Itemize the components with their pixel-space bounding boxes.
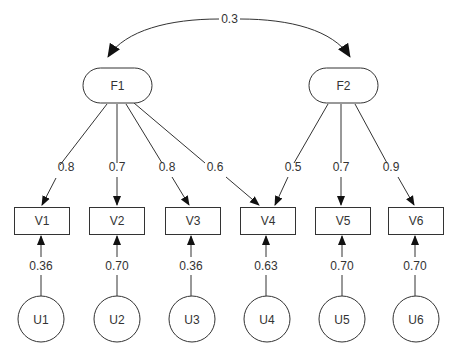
uniqueness-edge-u4: 0.63 (254, 236, 278, 296)
uniqueness-edge-u6: 0.70 (403, 236, 427, 296)
loading-edge-f1-v1: 0.8 (42, 104, 107, 205)
loading-label: 0.7 (109, 160, 126, 174)
variable-label: V5 (336, 214, 351, 228)
factor-node-f2: F2 (309, 68, 378, 103)
correlation-arrow-left (108, 19, 219, 57)
uniqueness-node-u4: U4 (244, 296, 290, 342)
uniqueness-edge-u2: 0.70 (105, 236, 129, 296)
loading-edge-f2-v4: 0.5 (275, 104, 328, 205)
uniqueness-node-label: U3 (184, 313, 200, 327)
variable-node-v4: V4 (241, 208, 296, 235)
factor-label: F2 (336, 79, 350, 93)
variable-node-v1: V1 (15, 208, 70, 235)
uniqueness-node-u2: U2 (94, 296, 140, 342)
correlation-arrow-right (240, 19, 350, 57)
diagram-svg: 0.3 F1 F2 0.8 0.7 0.8 0.6 0.5 0.7 (0, 0, 458, 353)
loading-label: 0.7 (333, 160, 350, 174)
uniqueness-edge-u5: 0.70 (330, 236, 354, 296)
loading-label: 0.5 (285, 160, 302, 174)
loading-label: 0.8 (159, 160, 176, 174)
uniqueness-node-label: U2 (109, 313, 125, 327)
loading-edge-f1-v4: 0.6 (134, 103, 259, 205)
uniqueness-label: 0.36 (179, 259, 203, 273)
uniqueness-node-label: U6 (408, 313, 424, 327)
uniqueness-label: 0.70 (403, 259, 427, 273)
correlation-label: 0.3 (221, 12, 238, 26)
uniqueness-label: 0.70 (105, 259, 129, 273)
sem-diagram: 0.3 F1 F2 0.8 0.7 0.8 0.6 0.5 0.7 (0, 0, 458, 353)
uniqueness-node-label: U5 (334, 313, 350, 327)
loading-label: 0.9 (383, 160, 400, 174)
variable-node-v6: V6 (389, 208, 444, 235)
variable-node-v5: V5 (316, 208, 371, 235)
variable-label: V1 (35, 214, 50, 228)
uniqueness-node-label: U1 (33, 313, 49, 327)
variable-node-v3: V3 (166, 208, 221, 235)
loading-edge-f2-v5: 0.7 (333, 104, 350, 205)
factor-label: F1 (110, 79, 124, 93)
uniqueness-label: 0.70 (330, 259, 354, 273)
variable-label: V4 (261, 214, 276, 228)
variable-label: V2 (110, 214, 125, 228)
uniqueness-label: 0.36 (29, 259, 53, 273)
loading-edge-f2-v6: 0.9 (355, 104, 414, 205)
uniqueness-node-label: U4 (259, 313, 275, 327)
uniqueness-node-u5: U5 (319, 296, 365, 342)
loading-edge-f1-v2: 0.7 (109, 104, 126, 205)
variable-label: V3 (186, 214, 201, 228)
uniqueness-edge-u1: 0.36 (29, 236, 53, 296)
factor-node-f1: F1 (83, 68, 152, 103)
variable-label: V6 (409, 214, 424, 228)
uniqueness-edge-u3: 0.36 (179, 236, 203, 296)
factor-correlation-edge: 0.3 (108, 12, 350, 57)
variable-node-v2: V2 (90, 208, 145, 235)
uniqueness-node-u6: U6 (393, 296, 439, 342)
loading-label: 0.8 (58, 160, 75, 174)
uniqueness-node-u3: U3 (169, 296, 215, 342)
loading-label: 0.6 (207, 160, 224, 174)
loading-edge-f1-v3: 0.8 (126, 104, 189, 205)
uniqueness-label: 0.63 (254, 259, 278, 273)
uniqueness-node-u1: U1 (18, 296, 64, 342)
